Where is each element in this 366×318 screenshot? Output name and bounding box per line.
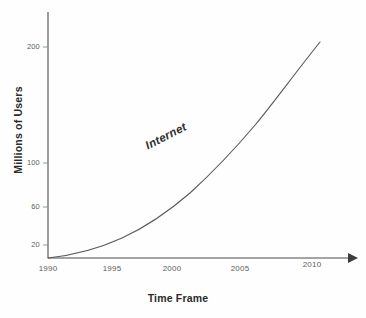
internet-growth-curve — [48, 42, 320, 258]
x-axis-arrowhead-icon — [348, 253, 358, 263]
y-tick-label-20: 20 — [14, 240, 40, 249]
x-tick-label-1995: 1995 — [94, 264, 130, 273]
chart-container: 200 100 60 20 1990 1995 2000 2005 2010 M… — [0, 0, 366, 318]
y-axis-title: Millions of Users — [12, 67, 24, 193]
x-tick-label-2000: 2000 — [154, 264, 190, 273]
y-tick-label-60: 60 — [14, 202, 40, 211]
x-tick-label-2005: 2005 — [222, 264, 258, 273]
x-tick-label-2010: 2010 — [294, 260, 330, 269]
x-axis-title: Time Frame — [118, 292, 238, 304]
y-tick-label-200: 200 — [14, 42, 40, 51]
x-tick-label-1990: 1990 — [30, 264, 66, 273]
